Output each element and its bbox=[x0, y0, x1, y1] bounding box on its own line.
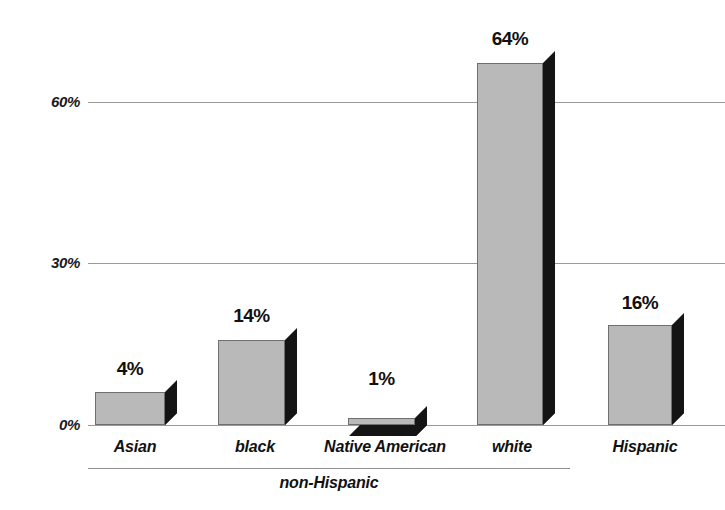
bar-value-label-hispanic: 16% bbox=[608, 292, 672, 314]
bar-chart: 60% 30% 0% 4% 14% 1% bbox=[0, 0, 725, 510]
gridline-30 bbox=[88, 263, 725, 264]
group-bracket-line bbox=[88, 468, 570, 469]
bar-value-label-white: 64% bbox=[477, 28, 543, 50]
category-label-hispanic: Hispanic bbox=[590, 438, 700, 456]
category-label-native-american: Native American bbox=[305, 438, 465, 456]
bar-value-label-native-american: 1% bbox=[348, 368, 415, 390]
bar-white-front bbox=[477, 63, 543, 425]
bar-black-front bbox=[218, 340, 285, 425]
bar-native-american-front bbox=[348, 418, 415, 425]
category-label-black: black bbox=[205, 438, 305, 456]
category-label-white: white bbox=[462, 438, 562, 456]
group-bracket-label: non-Hispanic bbox=[88, 474, 570, 492]
bar-hispanic-front bbox=[608, 325, 672, 425]
bar-value-label-asian: 4% bbox=[95, 358, 165, 380]
category-label-asian: Asian bbox=[85, 438, 185, 456]
y-axis-tick-label-0: 0% bbox=[20, 416, 80, 433]
bar-value-label-black: 14% bbox=[218, 305, 285, 327]
bar-asian-front bbox=[95, 392, 165, 425]
gridline-60 bbox=[88, 102, 725, 103]
y-axis-tick-label-60: 60% bbox=[20, 93, 80, 110]
y-axis-tick-label-30: 30% bbox=[20, 254, 80, 271]
